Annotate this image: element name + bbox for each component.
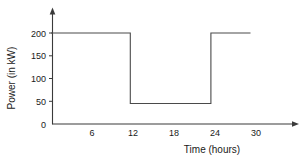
y-axis-arrow-icon [50, 8, 56, 15]
y-tick-label-0: 0 [41, 120, 46, 130]
y-tick-label-50: 50 [36, 97, 46, 107]
x-tick-label-24: 24 [210, 128, 220, 138]
power-step-line [51, 33, 251, 104]
x-tick-label-18: 18 [169, 128, 179, 138]
chart-canvas: 200 150 100 50 0 6 12 18 24 30 Time (hou… [0, 0, 306, 160]
y-tick-label-200: 200 [31, 29, 46, 39]
power-vs-time-chart: 200 150 100 50 0 6 12 18 24 30 Time (hou… [0, 0, 306, 160]
x-tick-label-6: 6 [89, 128, 94, 138]
x-axis-arrow-icon [292, 121, 299, 126]
y-tick-label-150: 150 [31, 51, 46, 61]
x-tick-label-12: 12 [128, 128, 138, 138]
y-axis-title: Power (in kW) [6, 47, 17, 110]
y-tick-label-100: 100 [31, 74, 46, 84]
x-axis-title: Time (hours) [184, 144, 240, 155]
x-tick-label-30: 30 [251, 128, 261, 138]
